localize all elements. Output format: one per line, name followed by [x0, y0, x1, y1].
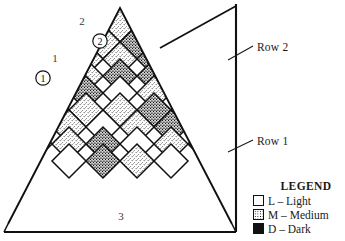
lattice-cell: [1, 93, 35, 127]
circled-marker-1: 1: [36, 71, 50, 85]
row1-leader-line: [228, 140, 253, 152]
lattice-cell: [0, 110, 18, 144]
quilt-layout-diagram: 1 2 1 2 3 Row 2 Row 1 LEGEND L – Light M…: [0, 0, 345, 241]
light-swatch-icon: [253, 195, 264, 206]
lattice-cell: [188, 127, 222, 161]
lattice-cell: [171, 59, 205, 93]
legend-item-light-label: L – Light: [268, 195, 311, 207]
svg-text:1: 1: [41, 73, 46, 84]
reference-number-1: 1: [52, 52, 58, 64]
lattice-cell: [18, 110, 52, 144]
row-1-label: Row 1: [257, 135, 288, 147]
dark-swatch-icon: [253, 223, 264, 234]
lattice-cell: [1, 76, 35, 110]
lattice-cell: [188, 110, 222, 144]
lattice-cell: [171, 76, 205, 110]
lattice-cell: [0, 93, 1, 127]
circled-marker-2: 2: [93, 34, 107, 48]
lattice-cell: [1, 59, 35, 93]
lattice-cell: [137, 8, 171, 42]
row-2-label: Row 2: [257, 41, 288, 53]
lattice-cell: [239, 93, 273, 127]
lattice-cell: [205, 93, 239, 127]
legend: LEGEND L – Light M – Medium D – Dark: [253, 180, 345, 235]
legend-item-light: L – Light: [253, 194, 345, 207]
lattice-cell: [18, 25, 52, 59]
lattice-cell: [0, 42, 1, 76]
lattice-cell: [1, 42, 35, 76]
legend-title: LEGEND: [267, 180, 345, 192]
lattice-cell: [239, 76, 273, 110]
row2-leader-line: [228, 46, 253, 60]
lattice-cell: [205, 59, 239, 93]
medium-swatch-icon: [253, 209, 264, 220]
lattice-cell: [205, 42, 239, 76]
lattice-cell: [205, 76, 239, 110]
svg-text:2: 2: [98, 36, 103, 47]
lattice-cell-group: [0, 8, 273, 178]
lattice-cell: [222, 110, 256, 144]
lattice-cell: [239, 59, 273, 93]
lattice-cell: [35, 8, 69, 42]
legend-item-medium-label: M – Medium: [268, 209, 329, 221]
legend-item-dark: D – Dark: [253, 222, 345, 235]
lattice-cell: [0, 76, 1, 110]
legend-item-medium: M – Medium: [253, 208, 345, 221]
lattice-cell: [0, 59, 1, 93]
reference-number-2: 2: [79, 15, 85, 27]
lattice-cell: [18, 127, 52, 161]
lattice-cell: [171, 42, 205, 76]
lattice-cell: [0, 25, 18, 59]
reference-number-3: 3: [118, 210, 124, 222]
legend-item-dark-label: D – Dark: [268, 223, 311, 235]
row-leader-lines: [228, 46, 253, 152]
